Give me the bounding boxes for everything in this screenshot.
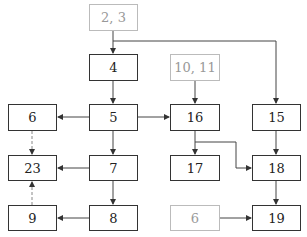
node-label: 2, 3 — [101, 10, 126, 25]
node-6: 6 — [8, 104, 57, 131]
node-label: 8 — [109, 211, 117, 226]
node-18: 18 — [252, 155, 301, 181]
node-2-3: 2, 3 — [89, 4, 138, 31]
node-19: 19 — [252, 205, 301, 231]
node-8: 8 — [89, 205, 138, 231]
node-label: 4 — [109, 60, 117, 75]
node-label: 10, 11 — [174, 60, 215, 75]
node-7: 7 — [89, 155, 138, 181]
node-label: 5 — [109, 110, 117, 125]
node-5: 5 — [89, 104, 138, 131]
node-9: 9 — [8, 205, 57, 231]
node-label: 17 — [187, 161, 204, 176]
node-label: 18 — [268, 161, 285, 176]
node-label: 7 — [109, 161, 117, 176]
node-15: 15 — [252, 104, 301, 131]
node-label: 23 — [24, 161, 41, 176]
node-label: 19 — [268, 211, 285, 226]
node-16: 16 — [170, 104, 220, 131]
node-label: 15 — [268, 110, 285, 125]
node-label: 16 — [187, 110, 204, 125]
node-label: 6 — [191, 211, 199, 226]
node-10-11: 10, 11 — [170, 54, 220, 81]
node-label: 6 — [28, 110, 36, 125]
node-17: 17 — [170, 155, 220, 181]
node-23: 23 — [8, 155, 57, 181]
node-4: 4 — [89, 54, 138, 81]
node-label: 9 — [28, 211, 36, 226]
node-6-ghost: 6 — [170, 205, 220, 231]
